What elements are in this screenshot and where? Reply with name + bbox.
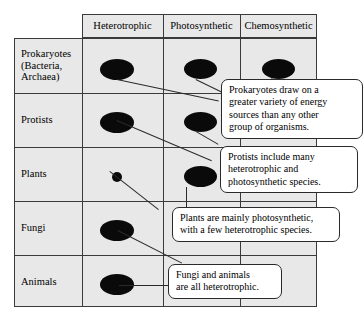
column-header-photosynthetic: Photosynthetic: [163, 14, 240, 38]
callout-plants-note: Plants are mainly photosynthetic, with a…: [172, 207, 340, 242]
callout-fungi-animals-note: Fungi and animals are all heterotrophic.: [168, 264, 282, 299]
grid-hline-3: [14, 201, 317, 202]
callout-line: Plants are mainly photosynthetic,: [180, 212, 333, 224]
marker-protists-photosynthetic: [184, 112, 217, 132]
row-label-prokaryotes: Prokaryotes (Bacteria, Archaea): [21, 48, 83, 83]
callout-line: group of organisms.: [229, 121, 356, 133]
grid-vline-2: [163, 14, 164, 307]
leader-line-plants-photo: [186, 187, 187, 209]
row-label-line: (Bacteria,: [21, 60, 83, 72]
callout-line: sources than any other: [229, 109, 356, 121]
row-label-line: Archaea): [21, 71, 83, 83]
callout-protists-note: Protists include many heterotrophic and …: [220, 146, 358, 193]
row-label-animals: Animals: [21, 276, 83, 288]
column-header-heterotrophic: Heterotrophic: [82, 14, 163, 38]
callout-line: greater variety of energy: [229, 96, 356, 108]
marker-prokaryotes-chemosynthetic: [262, 59, 295, 79]
row-label-line: Prokaryotes: [21, 48, 83, 60]
marker-prokaryotes-photosynthetic: [184, 59, 217, 79]
biology-energy-source-figure: Heterotrophic Photosynthetic Chemosynthe…: [0, 0, 364, 322]
callout-prokaryotes-note: Prokaryotes draw on a greater variety of…: [221, 79, 363, 139]
leader-line-animals: [119, 285, 169, 286]
row-label-protists: Protists: [21, 114, 83, 126]
callout-line: Prokaryotes draw on a: [229, 84, 356, 96]
row-label-fungi: Fungi: [21, 222, 83, 234]
marker-protists-heterotrophic: [100, 112, 134, 133]
callout-line: are all heterotrophic.: [176, 281, 275, 293]
marker-prokaryotes-heterotrophic: [100, 59, 134, 80]
marker-plants-photosynthetic: [184, 166, 217, 187]
column-header-chemosynthetic: Chemosynthetic: [240, 14, 317, 38]
callout-line: Protists include many: [228, 151, 351, 163]
callout-line: heterotrophic and: [228, 163, 351, 175]
callout-line: with a few heterotrophic species.: [180, 224, 333, 236]
callout-line: Fungi and animals: [176, 269, 275, 281]
callout-line: photosynthetic species.: [228, 176, 351, 188]
row-label-plants: Plants: [21, 168, 83, 180]
